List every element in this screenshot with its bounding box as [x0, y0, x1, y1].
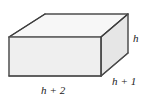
height-label: h [133, 33, 139, 44]
rectangular-prism-figure: h h + 1 h + 2 [0, 0, 152, 101]
front-face [9, 37, 101, 76]
depth-label: h + 1 [112, 76, 136, 87]
width-label: h + 2 [41, 85, 65, 96]
